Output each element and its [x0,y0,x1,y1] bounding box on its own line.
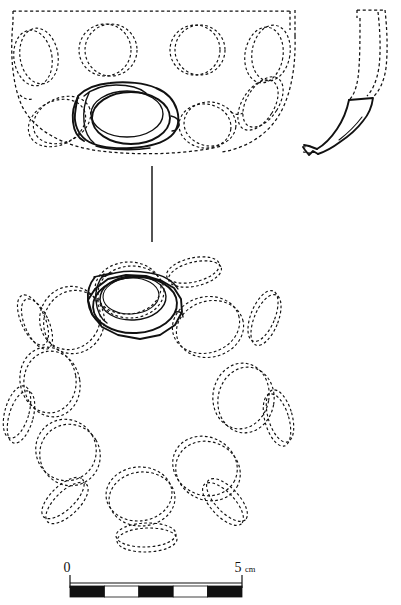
scale-end-label: 5 [235,560,242,575]
plan-boss-ring [15,260,279,529]
profile-boss-upper-4 [241,22,294,85]
scale-start-label: 0 [64,560,71,575]
figure-root: 0 5 cm [0,0,401,605]
scale-bar: 0 5 cm [64,560,256,597]
vessel-illustration: 0 5 cm [0,0,401,605]
plan-boss-e [208,359,280,438]
plan-lens-2 [242,286,287,349]
plan-lens-1 [164,252,224,292]
plan-boss-se [163,425,251,511]
plan-view [0,252,299,553]
plan-lens-5 [116,522,178,553]
plan-boss-n [93,260,165,320]
plan-lens-7 [0,383,40,447]
profile-surviving-sherd [73,82,179,150]
profile-boss-upper-2 [79,24,137,76]
scale-segment-2 [104,586,138,597]
profile-boss-upper-1 [10,25,62,88]
profile-boss-lower-2 [177,99,239,151]
scale-segment-3 [139,586,173,597]
plan-lens-4 [196,472,254,532]
scale-segment-1 [70,586,104,597]
profile-view [10,10,295,156]
plan-perimeter-lenses [0,252,299,553]
plan-boss-w [15,343,85,421]
plan-boss-sw [25,408,112,497]
scale-unit-label: cm [245,564,256,574]
plan-lens-6 [35,471,95,531]
plan-boss-s [104,464,177,529]
profile-rim [13,10,295,36]
section-fragment [303,10,387,155]
profile-boss-upper-3 [170,25,225,75]
plan-lens-3 [258,387,299,450]
plan-boss-ne [166,289,251,366]
scale-segment-5 [208,586,242,597]
profile-boss-lower-3 [230,70,292,137]
scale-segment-4 [173,586,207,597]
plan-lens-8 [11,290,59,353]
